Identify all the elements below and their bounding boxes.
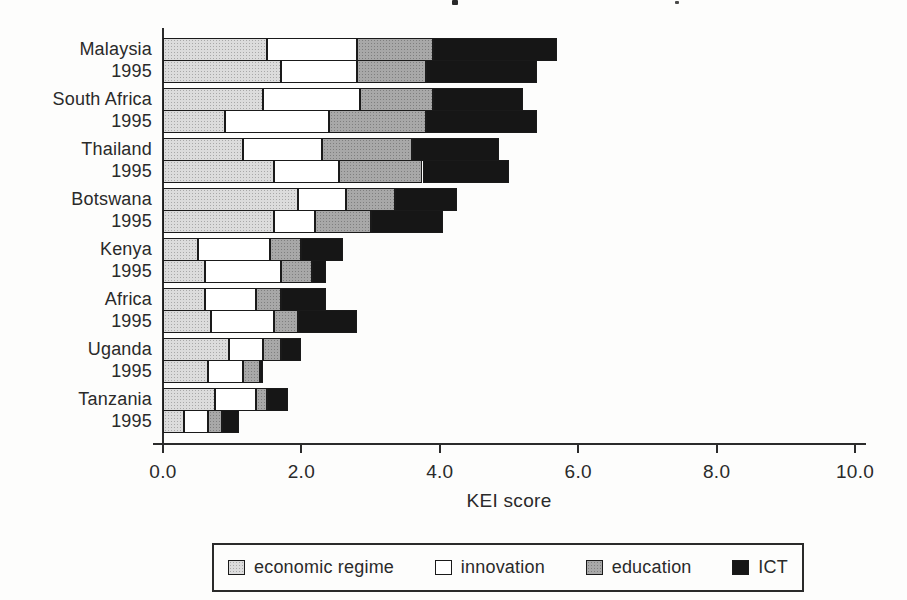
x-axis-tick-label: 8.0 <box>703 461 730 483</box>
bar-segment-economic-regime <box>163 360 208 383</box>
stacked-bar-recent <box>163 88 903 111</box>
bar-segment-education <box>329 110 426 133</box>
stacked-bar-y1995 <box>163 260 903 283</box>
bar-segment-ict <box>312 260 326 283</box>
x-axis-tick <box>162 445 164 453</box>
bar-segment-innovation <box>267 38 357 61</box>
bar-pair <box>163 388 907 433</box>
stacked-bar-recent <box>163 238 903 261</box>
x-axis-tick-label: 6.0 <box>565 461 592 483</box>
stacked-bar-y1995 <box>163 410 903 433</box>
bar-segment-economic-regime <box>163 338 229 361</box>
legend-label: education <box>612 557 692 578</box>
bar-segment-education <box>360 88 433 111</box>
bar-segment-innovation <box>215 388 257 411</box>
year-label: 1995 <box>0 260 152 282</box>
bar-segment-economic-regime <box>163 260 205 283</box>
bar-segment-education <box>357 38 433 61</box>
bar-segment-economic-regime <box>163 310 211 333</box>
x-axis-tick-label: 4.0 <box>426 461 453 483</box>
legend-item-education: education <box>586 557 692 578</box>
bar-segment-innovation <box>263 88 360 111</box>
legend-item-ict: ICT <box>732 557 788 578</box>
bar-segment-economic-regime <box>163 160 274 183</box>
legend-swatch-innovation <box>435 560 452 575</box>
bar-segment-economic-regime <box>163 210 274 233</box>
country-group-malaysia: Malaysia1995 <box>0 38 907 84</box>
bar-segment-economic-regime <box>163 388 215 411</box>
bar-segment-education <box>281 260 312 283</box>
stacked-bar-recent <box>163 138 903 161</box>
legend-label: ICT <box>758 557 788 578</box>
country-group-kenya: Kenya1995 <box>0 238 907 284</box>
bar-segment-education <box>322 138 412 161</box>
country-label-south-africa: South Africa1995 <box>0 88 152 133</box>
bar-segment-economic-regime <box>163 288 205 311</box>
bar-segment-education <box>357 60 426 83</box>
bar-segment-economic-regime <box>163 88 263 111</box>
bar-segment-innovation <box>229 338 264 361</box>
x-axis-tick-label: 10.0 <box>836 461 874 483</box>
stacked-bar-y1995 <box>163 360 903 383</box>
country-name: Africa <box>0 288 152 310</box>
bar-segment-ict <box>281 288 326 311</box>
bar-segment-economic-regime <box>163 60 281 83</box>
bar-segment-innovation <box>274 210 316 233</box>
x-axis-tick-label: 0.0 <box>149 461 176 483</box>
country-label-kenya: Kenya1995 <box>0 238 152 283</box>
bar-segment-economic-regime <box>163 238 198 261</box>
x-axis-tick <box>439 445 441 453</box>
bar-segment-innovation <box>184 410 208 433</box>
country-group-thailand: Thailand1995 <box>0 138 907 184</box>
stacked-bar-y1995 <box>163 60 903 83</box>
stacked-bar-recent <box>163 38 903 61</box>
bar-segment-innovation <box>211 310 273 333</box>
bar-segment-ict <box>301 238 343 261</box>
stacked-bar-y1995 <box>163 210 903 233</box>
bar-segment-innovation <box>205 288 257 311</box>
country-name: Thailand <box>0 138 152 160</box>
x-axis-tick-label: 2.0 <box>288 461 315 483</box>
country-label-malaysia: Malaysia1995 <box>0 38 152 83</box>
bar-segment-education <box>208 410 222 433</box>
legend-label: economic regime <box>254 557 394 578</box>
x-axis-tick <box>300 445 302 453</box>
bar-pair <box>163 138 907 183</box>
bar-segment-education <box>346 188 394 211</box>
legend-item-innovation: innovation <box>435 557 545 578</box>
bar-segment-ict <box>298 310 357 333</box>
bar-pair <box>163 88 907 133</box>
stacked-bar-recent <box>163 338 903 361</box>
bar-segment-innovation <box>274 160 340 183</box>
country-group-botswana: Botswana1995 <box>0 188 907 234</box>
bar-segment-education <box>315 210 370 233</box>
bar-pair <box>163 38 907 83</box>
bar-segment-education <box>256 288 280 311</box>
bar-segment-economic-regime <box>163 138 243 161</box>
x-axis-tick <box>716 445 718 453</box>
bar-pair <box>163 288 907 333</box>
bar-segment-ict <box>281 338 302 361</box>
cropped-title-remnant <box>452 0 458 5</box>
bar-segment-ict <box>426 110 537 133</box>
legend-label: innovation <box>461 557 545 578</box>
bar-segment-ict <box>395 188 457 211</box>
legend-swatch-education <box>586 560 603 575</box>
bar-segment-innovation <box>198 238 271 261</box>
country-name: South Africa <box>0 88 152 110</box>
x-axis-title: KEI score <box>163 490 855 512</box>
x-axis-tick <box>577 445 579 453</box>
legend-swatch-ict <box>732 560 749 575</box>
year-label: 1995 <box>0 210 152 232</box>
bar-segment-innovation <box>225 110 329 133</box>
bar-segment-ict <box>433 38 558 61</box>
stacked-bar-y1995 <box>163 110 903 133</box>
country-name: Malaysia <box>0 38 152 60</box>
bar-segment-ict <box>371 210 444 233</box>
bar-segment-ict <box>412 138 499 161</box>
country-name: Uganda <box>0 338 152 360</box>
bar-segment-education <box>274 310 298 333</box>
bar-pair <box>163 238 907 283</box>
stacked-bar-recent <box>163 288 903 311</box>
country-name: Botswana <box>0 188 152 210</box>
